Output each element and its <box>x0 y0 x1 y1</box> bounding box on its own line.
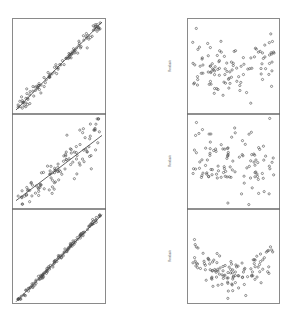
data-point <box>256 276 258 278</box>
data-point <box>97 142 99 144</box>
data-point <box>34 192 36 194</box>
data-point <box>230 260 232 262</box>
data-point <box>271 40 273 42</box>
data-point <box>198 167 200 169</box>
data-point <box>197 267 199 269</box>
data-point <box>258 192 260 194</box>
data-point <box>21 190 23 192</box>
data-point <box>230 61 232 63</box>
data-point <box>268 272 270 274</box>
data-point <box>246 276 248 278</box>
data-point <box>38 190 40 192</box>
data-point <box>66 134 68 136</box>
data-point <box>72 161 74 163</box>
panel-left-middle <box>16 118 102 205</box>
data-point <box>57 68 59 70</box>
data-point <box>268 165 270 167</box>
data-point <box>62 160 64 162</box>
data-point <box>229 71 231 73</box>
data-point <box>199 267 201 269</box>
data-point <box>270 85 272 87</box>
data-point <box>196 84 198 86</box>
data-point <box>217 284 219 286</box>
data-point <box>82 235 84 237</box>
data-point <box>219 267 221 269</box>
data-point <box>85 148 87 150</box>
data-point <box>95 216 97 218</box>
data-point <box>64 168 66 170</box>
data-point <box>204 269 206 271</box>
data-point <box>195 265 197 267</box>
data-point <box>234 271 236 273</box>
data-point <box>234 282 236 284</box>
data-point <box>219 255 221 257</box>
data-point <box>260 282 262 284</box>
data-point <box>257 162 259 164</box>
data-point <box>220 144 222 146</box>
data-point <box>256 175 258 177</box>
data-point <box>96 30 98 32</box>
data-point <box>29 201 31 203</box>
data-point <box>253 161 255 163</box>
data-point <box>230 76 232 78</box>
data-point <box>89 123 91 125</box>
data-point <box>192 172 194 174</box>
data-point <box>89 135 91 137</box>
panel-left-bottom <box>16 214 102 302</box>
data-point <box>198 46 200 48</box>
data-point <box>26 186 28 188</box>
data-point <box>64 248 66 250</box>
y-axis-label-top: Residuals <box>168 60 172 72</box>
data-point <box>221 274 223 276</box>
data-point <box>231 136 233 138</box>
data-point <box>260 73 262 75</box>
data-point <box>263 191 265 193</box>
data-point <box>231 69 233 71</box>
data-point <box>53 188 55 190</box>
data-point <box>192 262 194 264</box>
data-point <box>215 276 217 278</box>
data-point <box>243 175 245 177</box>
data-point <box>211 63 213 65</box>
data-point <box>269 117 271 119</box>
data-point <box>228 87 230 89</box>
data-point <box>237 287 239 289</box>
data-point <box>227 271 229 273</box>
y-axis-label-bottom: Residuals <box>168 250 172 262</box>
data-point <box>77 52 79 54</box>
data-point <box>238 76 240 78</box>
data-point <box>227 290 229 292</box>
data-point <box>194 260 196 262</box>
data-point <box>51 186 53 188</box>
data-point <box>201 159 203 161</box>
data-point <box>17 195 19 197</box>
data-point <box>258 263 260 265</box>
residual-diagnostics-figure: Residuals Residuals Residuals <box>0 0 293 318</box>
data-point <box>268 54 270 56</box>
data-point <box>61 173 63 175</box>
data-point <box>31 184 33 186</box>
data-point <box>43 76 45 78</box>
data-point <box>217 170 219 172</box>
data-point <box>253 263 255 265</box>
data-point <box>216 54 218 56</box>
data-point <box>46 165 48 167</box>
data-point <box>68 158 70 160</box>
data-point <box>40 92 42 94</box>
data-point <box>216 262 218 264</box>
data-point <box>26 88 28 90</box>
data-point <box>33 95 35 97</box>
data-point <box>48 189 50 191</box>
data-point <box>220 40 222 42</box>
data-point <box>209 80 211 82</box>
data-point <box>229 166 231 168</box>
data-point <box>254 164 256 166</box>
data-point <box>63 64 65 66</box>
data-point <box>209 263 211 265</box>
data-point <box>241 140 243 142</box>
data-point <box>194 243 196 245</box>
data-point <box>86 47 88 49</box>
data-point <box>268 42 270 44</box>
data-point <box>205 279 207 281</box>
data-point <box>82 128 84 130</box>
